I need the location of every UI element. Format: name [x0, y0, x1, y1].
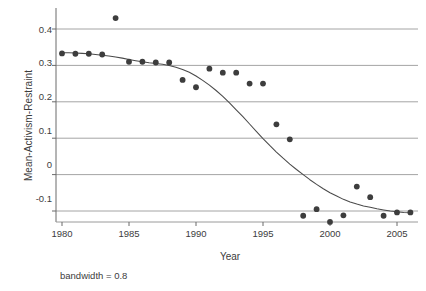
data-point-2003 — [367, 194, 373, 200]
data-point-1981 — [73, 51, 79, 57]
x-tick-label-2000: 2000 — [310, 228, 350, 239]
y-tick-label-0.1: 0.1 — [26, 126, 52, 136]
data-point-1999 — [314, 206, 320, 212]
x-axis-title: Year — [62, 251, 398, 262]
scatter-points — [59, 15, 413, 225]
data-point-1993 — [233, 70, 239, 76]
y-tick-label-0.2: 0.2 — [26, 92, 52, 102]
x-tick-label-1990: 1990 — [176, 228, 216, 239]
data-point-1982 — [86, 51, 92, 57]
data-point-1997 — [287, 136, 293, 142]
y-tick-label-0.3: 0.3 — [26, 58, 52, 68]
plot-area — [0, 0, 426, 291]
data-point-1996 — [274, 121, 280, 127]
data-point-1998 — [300, 213, 306, 219]
data-point-1995 — [260, 81, 266, 87]
x-tick-label-2005: 2005 — [377, 228, 417, 239]
data-point-1985 — [126, 59, 132, 65]
data-point-1989 — [180, 77, 186, 83]
data-point-1994 — [247, 81, 253, 87]
data-point-2005 — [394, 210, 400, 216]
data-point-1988 — [166, 60, 172, 66]
data-point-1983 — [99, 52, 105, 58]
x-tick-label-1995: 1995 — [243, 228, 283, 239]
data-point-1990 — [193, 84, 199, 90]
y-axis-tick-labels: 0.4 0.3 0.2 0.1 0 -0.1 — [0, 0, 52, 291]
axis-lines — [56, 8, 418, 222]
data-point-2006 — [408, 210, 414, 216]
data-point-1992 — [220, 70, 226, 76]
bandwidth-caption: bandwidth = 0.8 — [60, 270, 127, 281]
chart-figure: Mean-Activism-Restraint 0.4 0.3 0.2 0.1 … — [0, 0, 426, 291]
data-point-1986 — [140, 59, 146, 65]
data-point-1980 — [59, 50, 65, 56]
data-point-2001 — [341, 212, 347, 218]
data-point-2004 — [381, 213, 387, 219]
data-point-1984 — [113, 15, 119, 21]
data-point-1987 — [153, 60, 159, 66]
x-tick-label-1985: 1985 — [109, 228, 149, 239]
data-point-2002 — [354, 184, 360, 190]
axis-ticks — [52, 29, 397, 226]
y-tick-label-0.4: 0.4 — [26, 25, 52, 35]
y-tick-label--0.1: -0.1 — [26, 194, 52, 204]
data-point-2000 — [327, 219, 333, 225]
x-tick-label-1980: 1980 — [42, 228, 82, 239]
data-point-1991 — [207, 66, 213, 72]
y-tick-label-0: 0 — [26, 160, 52, 170]
